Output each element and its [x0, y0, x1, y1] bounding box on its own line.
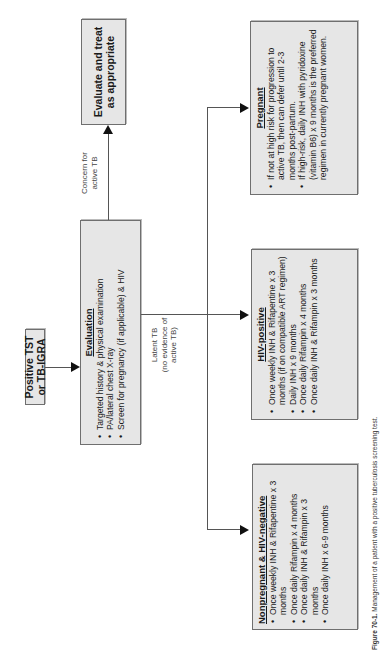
nonpregnant-box: Nonpregnant & HIV-negative Once weekly I… [252, 464, 358, 630]
regimen-item: Once daily INH & Rifampin x 3 months [299, 470, 320, 615]
hiv-positive-list: Once weekly INH & Rifapentine x 3 months… [267, 255, 319, 414]
regimen-item: Once daily INH x 6-9 months [320, 470, 330, 615]
positive-test-box: Positive TST or TB-IGRA [25, 329, 45, 405]
positive-test-label: Positive TST or TB-IGRA [23, 330, 47, 404]
arrow-to-evaluate-treat [103, 125, 113, 134]
arrow-to-evaluation [71, 362, 80, 372]
recommendation-item: If high-risk, daily INH with pyridoxine … [297, 27, 328, 180]
evaluate-treat-box: Evaluate and treat as appropriate [81, 19, 126, 125]
regimen-item: Once daily Rifampin x 4 months [298, 255, 308, 405]
evaluation-title: Evaluation [83, 226, 94, 439]
latent-tb-edge-label: Latent TB (no evidence of active TB) [150, 317, 179, 373]
connector-active-tb [108, 132, 109, 220]
connector-latent-tb [141, 314, 207, 315]
evaluation-list: Targeted history & physical examination … [95, 226, 126, 439]
figure-label: Figure 70-1. [371, 614, 378, 650]
recommendation-item: If not at high risk for progression to a… [266, 27, 297, 180]
pregnant-list: If not at high risk for progression to a… [266, 27, 328, 189]
evaluation-item: Targeted history & physical examination [95, 226, 105, 430]
hiv-positive-title: HIV-positive [255, 255, 266, 414]
pregnant-title: Pregnant [254, 27, 265, 189]
active-tb-edge-label: Concern for active TB [80, 143, 99, 203]
connector-nonpregnant [207, 529, 243, 530]
arrow-to-nonpregnant [240, 525, 249, 535]
evaluation-item: Screen for pregnancy (if applicable) & H… [116, 226, 126, 430]
nonpregnant-list: Once weekly INH & Rifapentine x 3 months… [268, 470, 330, 624]
evaluation-box: Evaluation Targeted history & physical e… [80, 220, 141, 445]
regimen-item: Daily INH x 9 months [288, 255, 298, 405]
connector-pregnant [207, 107, 243, 108]
regimen-item: Once weekly INH & Rifapentine x 3 months [268, 470, 289, 615]
arrow-to-hiv-positive [240, 310, 249, 320]
regimen-item: Once daily Rifampin x 4 months [289, 470, 299, 615]
branch-bus [207, 107, 208, 530]
figure-caption: Figure 70-1. Management of a patient wit… [371, 417, 378, 650]
connector-start-evaluation [45, 367, 72, 368]
regimen-item: Once weekly INH & Rifapentine x 3 months… [267, 255, 288, 405]
hiv-positive-box: HIV-positive Once weekly INH & Rifapenti… [251, 249, 358, 420]
figure-caption-text: Management of a patient with a positive … [371, 417, 378, 612]
pregnant-box: Pregnant If not at high risk for progres… [250, 21, 358, 195]
arrow-to-pregnant [240, 103, 249, 113]
connector-hiv-positive [207, 314, 243, 315]
nonpregnant-title: Nonpregnant & HIV-negative [256, 470, 267, 624]
regimen-item: Once daily INH & Rifampin x 3 months [309, 255, 319, 405]
evaluation-item: PA/lateral chest X-ray [105, 226, 115, 430]
flowchart-canvas: Positive TST or TB-IGRA Evaluation Targe… [0, 0, 388, 658]
